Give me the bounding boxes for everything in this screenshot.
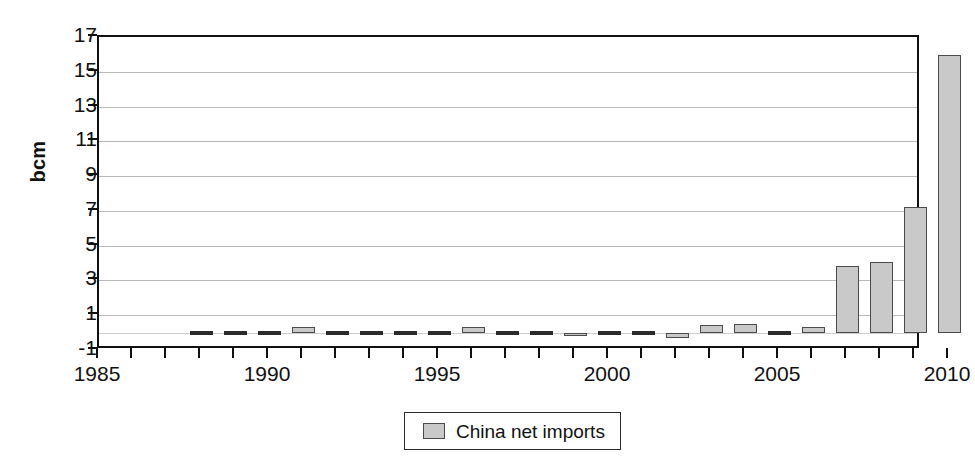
x-tick-mark [776,348,778,358]
x-tick-label: 1985 [52,362,142,385]
bar [734,324,757,333]
x-tick-label: 1990 [222,362,312,385]
bar [598,331,621,335]
y-axis-ticks: -11357911131517 [40,0,97,476]
x-tick-mark [878,348,880,358]
bar [462,327,485,333]
x-tick-mark [130,348,132,358]
bar [292,327,315,333]
bar [496,331,519,335]
bar [564,333,587,336]
bar [190,331,213,335]
y-tick-mark [88,138,97,140]
y-tick-mark [88,243,97,245]
bar [428,331,451,335]
bar [258,331,281,335]
x-tick-mark [402,348,404,358]
gridline [99,211,917,212]
bar [938,55,961,332]
x-tick-mark [198,348,200,358]
gridline [99,176,917,177]
x-tick-mark [572,348,574,358]
x-tick-mark [470,348,472,358]
bar [360,331,383,335]
y-tick-mark [88,277,97,279]
bar [394,331,417,335]
y-tick-mark [88,104,97,106]
x-tick-mark [674,348,676,358]
y-tick-mark [88,312,97,314]
x-tick-mark [844,348,846,358]
x-tick-label: 2010 [902,362,975,385]
x-tick-mark [946,348,948,358]
plot-area [97,35,919,348]
gridline [99,280,917,281]
x-tick-mark [266,348,268,358]
bar [836,266,859,333]
gridline [99,315,917,316]
bar [326,331,349,335]
bar [530,331,553,335]
x-tick-mark [742,348,744,358]
x-tick-mark [810,348,812,358]
bar [632,331,655,335]
y-tick-mark [88,34,97,36]
x-tick-mark [504,348,506,358]
gridline [99,72,917,73]
bar [666,333,689,338]
x-tick-label: 1995 [392,362,482,385]
bar [904,207,927,332]
gridline [99,107,917,108]
gridline [99,246,917,247]
y-tick-mark [88,69,97,71]
gridline [99,141,917,142]
x-tick-mark [368,348,370,358]
y-tick-mark [88,173,97,175]
x-tick-mark [96,348,98,358]
x-tick-mark [334,348,336,358]
x-tick-mark [300,348,302,358]
x-tick-mark [164,348,166,358]
x-tick-mark [708,348,710,358]
bar [768,331,791,335]
y-tick-mark [88,208,97,210]
x-tick-label: 2000 [562,362,652,385]
x-tick-label: 2005 [732,362,822,385]
bar [802,327,825,333]
x-tick-mark [436,348,438,358]
x-tick-mark [232,348,234,358]
bar [700,325,723,333]
legend-swatch-china-net-imports [423,423,445,439]
bar [870,262,893,332]
x-tick-mark [640,348,642,358]
x-tick-mark [606,348,608,358]
x-tick-mark [538,348,540,358]
x-tick-mark [912,348,914,358]
bar [224,331,247,335]
legend-label-china-net-imports: China net imports [456,422,605,441]
chart-legend: China net imports [404,412,621,450]
